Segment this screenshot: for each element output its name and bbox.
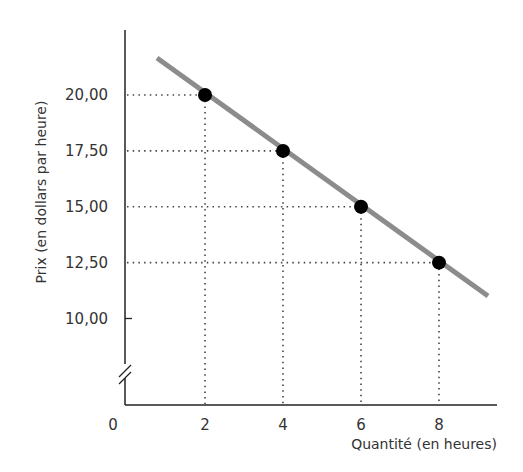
y-tick-label: 20,00 bbox=[65, 86, 108, 104]
y-axis-title: Prix (en dollars par heure) bbox=[33, 101, 49, 284]
y-tick-label: 10,00 bbox=[65, 310, 108, 328]
x-tick-label: 2 bbox=[200, 416, 210, 434]
axes bbox=[118, 30, 497, 405]
y-ticks: 10,0012,5015,0017,5020,00 bbox=[65, 86, 132, 328]
demand-chart: 10,0012,5015,0017,5020,00 2468 0 Quantit… bbox=[0, 0, 523, 472]
x-tick-label: 6 bbox=[356, 416, 366, 434]
x-origin-label: 0 bbox=[108, 416, 118, 434]
demand-series bbox=[157, 58, 488, 296]
x-axis-title: Quantité (en heures) bbox=[351, 436, 497, 452]
y-tick-label: 15,00 bbox=[65, 198, 108, 216]
y-tick-label: 17,50 bbox=[65, 142, 108, 160]
data-point bbox=[276, 144, 290, 158]
data-point bbox=[432, 256, 446, 270]
data-point bbox=[354, 200, 368, 214]
x-tick-label: 4 bbox=[278, 416, 288, 434]
dotted-guide-lines bbox=[127, 95, 439, 404]
x-ticks: 2468 bbox=[200, 416, 444, 434]
data-point bbox=[198, 88, 212, 102]
x-tick-label: 8 bbox=[434, 416, 444, 434]
y-tick-label: 12,50 bbox=[65, 254, 108, 272]
